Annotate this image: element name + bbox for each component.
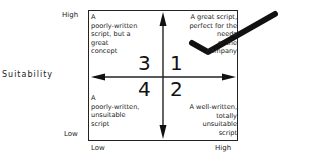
arrow-left-icon <box>91 74 105 81</box>
arrow-down-icon <box>160 125 167 139</box>
quadrant-1-number: 1 <box>170 53 183 73</box>
quadrant-4-number: 4 <box>138 79 151 99</box>
quadrant-3-number: 3 <box>138 53 151 73</box>
quadrant-3-text: A poorly-written script, but a great con… <box>91 13 137 56</box>
quadrant-1-text: A great script, perfect for the needs of… <box>189 13 237 56</box>
quadrant-2-number: 2 <box>170 79 183 99</box>
arrow-up-icon <box>160 12 167 26</box>
quadrant-4-text: A poorly-written, unsuitable script <box>91 94 139 128</box>
quadrant-2-text: A well-written, totally unsuitable scrip… <box>189 103 237 137</box>
arrow-right-icon <box>222 74 236 81</box>
